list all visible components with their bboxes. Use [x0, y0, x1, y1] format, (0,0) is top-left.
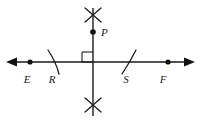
construction-diagram-svg: E R S F P — [0, 0, 201, 121]
geometry-figure: E R S F P — [0, 0, 201, 121]
point-p-dot — [90, 29, 96, 35]
label-p: P — [100, 26, 108, 38]
point-f-dot — [165, 59, 170, 64]
point-e-dot — [27, 59, 32, 64]
right-arrow-icon — [184, 58, 195, 67]
left-arrow-icon — [6, 58, 17, 67]
label-s: S — [123, 73, 129, 85]
right-angle-icon — [82, 52, 93, 62]
label-e: E — [23, 73, 31, 85]
label-r: R — [48, 73, 56, 85]
label-f: F — [159, 73, 167, 85]
